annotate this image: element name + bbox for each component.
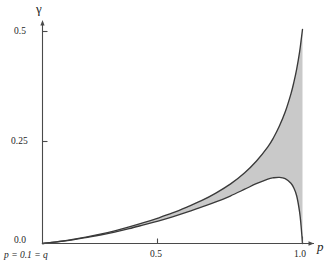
y-tick-label-0.0: 0.0 [14,236,26,246]
y-axis-label: γ [36,2,42,15]
upper-bound-curve [43,29,303,243]
chart-figure: γ p 0.5 0.25 0.0 0.5 1.0 p = 0.1 = q [0,0,331,275]
origin-annotation: p = 0.1 = q [4,251,48,261]
y-axis-ticks [43,32,48,142]
y-tick-label-0.25: 0.25 [11,137,28,147]
x-axis-arrow-icon [309,241,315,245]
shaded-region [43,29,303,243]
lower-bound-curve [43,177,303,243]
x-axis-ticks [158,237,303,244]
x-axis-label: p [317,240,324,253]
y-axis-arrow-icon [40,20,44,25]
x-tick-label-1.0: 1.0 [294,250,306,260]
chart-plot-area [0,0,331,275]
x-tick-label-0.5: 0.5 [150,250,162,260]
y-tick-label-0.5: 0.5 [14,27,26,37]
